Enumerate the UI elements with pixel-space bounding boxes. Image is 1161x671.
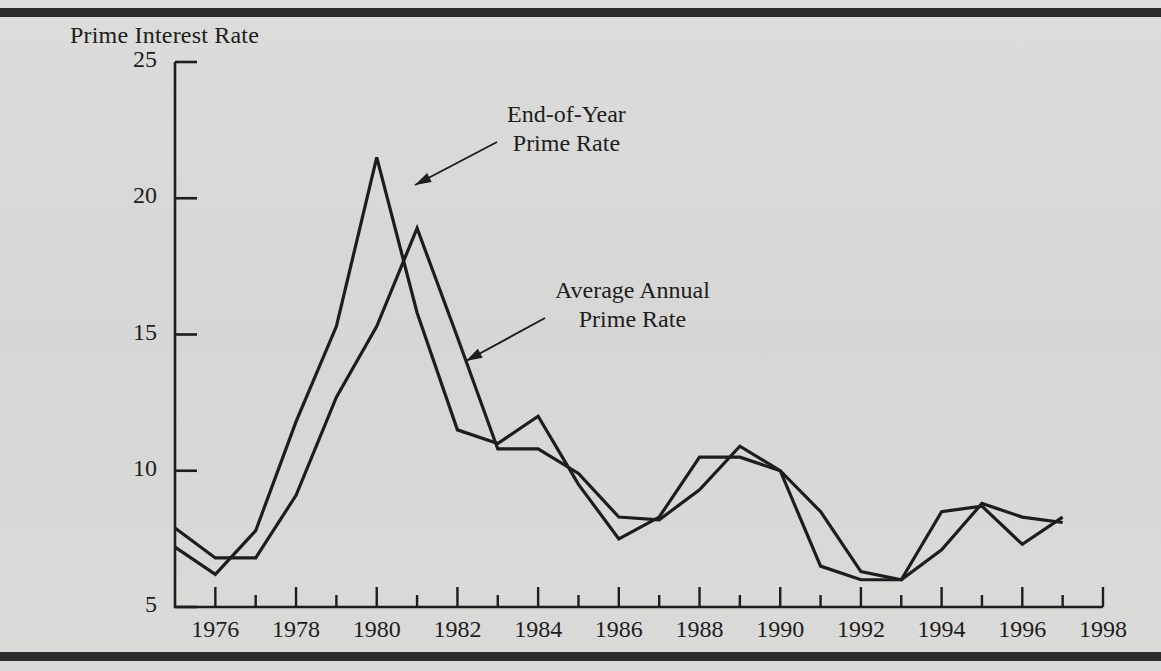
x-tick-label: 1976 <box>170 616 260 643</box>
x-tick-label: 1982 <box>412 616 502 643</box>
annotation-line-2: Prime Rate <box>555 305 710 334</box>
annotation-end-of-year: End-of-YearPrime Rate <box>507 100 626 159</box>
x-tick-label: 1992 <box>816 616 906 643</box>
annotation-line-1: End-of-Year <box>507 100 626 129</box>
x-tick-label: 1986 <box>574 616 664 643</box>
annotation-average-annual: Average AnnualPrime Rate <box>555 276 710 335</box>
x-tick-label: 1990 <box>735 616 825 643</box>
y-tick-label: 25 <box>103 46 157 73</box>
x-tick-label: 1978 <box>251 616 341 643</box>
annotation-arrowhead <box>415 173 432 185</box>
x-tick-label: 1996 <box>977 616 1067 643</box>
annotation-arrowhead <box>466 349 483 361</box>
y-tick-label: 15 <box>103 319 157 346</box>
y-tick-label: 20 <box>103 182 157 209</box>
y-tick-label: 5 <box>103 591 157 618</box>
y-tick-label: 10 <box>103 455 157 482</box>
x-tick-label: 1988 <box>655 616 745 643</box>
figure-panel: Prime Interest Rate 51015202519761978198… <box>0 0 1161 671</box>
x-tick-label: 1998 <box>1058 616 1148 643</box>
annotation-line-1: Average Annual <box>555 276 710 305</box>
x-tick-label: 1984 <box>493 616 583 643</box>
x-tick-label: 1980 <box>332 616 422 643</box>
annotation-line-2: Prime Rate <box>507 129 626 158</box>
x-tick-label: 1994 <box>897 616 987 643</box>
